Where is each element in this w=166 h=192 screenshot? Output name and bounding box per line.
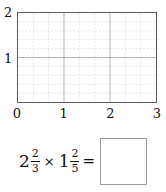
equals-sign: = [82,154,95,169]
multiplication-expression: 2 2 3 × 1 2 5 = [19,138,147,185]
y-axis-label-2: 2 [4,6,12,19]
x-axis-label-0: 0 [13,107,21,120]
second-whole-part: 1 [59,153,70,170]
first-mixed-number: 2 2 3 [19,148,40,175]
first-fraction: 2 3 [31,148,40,175]
first-numerator: 2 [31,148,40,160]
second-numerator: 2 [70,148,79,160]
x-axis-label-1: 1 [60,107,68,120]
x-axis-label-2: 2 [106,107,114,120]
second-denominator: 5 [70,163,79,175]
second-mixed-number: 1 2 5 [59,148,80,175]
plot-area [17,12,157,103]
answer-input-box[interactable] [100,138,147,185]
first-whole-part: 2 [19,153,30,170]
first-denominator: 3 [31,163,40,175]
equation-row: 2 2 3 × 1 2 5 = [0,130,166,192]
multiplication-operator: × [44,155,55,168]
grid-figure: 2 1 0 1 2 3 [0,0,166,128]
y-axis-label-1: 1 [4,51,12,64]
x-axis-label-3: 3 [153,107,161,120]
second-fraction: 2 5 [70,148,79,175]
gridlines [18,13,156,102]
